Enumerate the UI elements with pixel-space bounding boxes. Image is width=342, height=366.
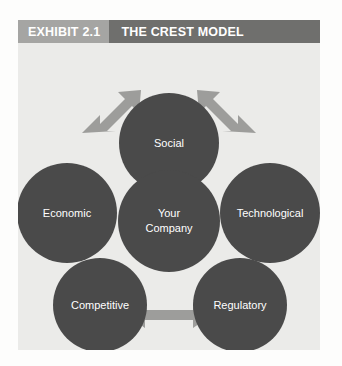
exhibit-figure: EXHIBIT 2.1 THE CREST MODEL bbox=[0, 0, 342, 366]
node-regulatory[interactable]: Regulatory bbox=[193, 258, 287, 350]
exhibit-title: THE CREST MODEL bbox=[109, 20, 320, 43]
node-social-label: Social bbox=[154, 137, 184, 149]
node-your-company-label-line2: Company bbox=[145, 222, 193, 234]
exhibit-number-label: EXHIBIT 2.1 bbox=[18, 20, 109, 43]
exhibit-header: EXHIBIT 2.1 THE CREST MODEL bbox=[18, 20, 320, 43]
node-regulatory-label: Regulatory bbox=[213, 299, 267, 311]
node-technological-label: Technological bbox=[237, 207, 304, 219]
node-your-company-label-line1: Your bbox=[158, 207, 181, 219]
node-competitive-label: Competitive bbox=[71, 299, 129, 311]
node-technological[interactable]: Technological bbox=[220, 163, 320, 263]
node-economic-label: Economic bbox=[43, 207, 92, 219]
node-your-company[interactable]: Your Company bbox=[118, 170, 220, 272]
node-competitive[interactable]: Competitive bbox=[53, 258, 147, 350]
crest-model-diagram: Social Technological Regulatory Competit… bbox=[18, 43, 320, 350]
node-economic[interactable]: Economic bbox=[18, 163, 117, 263]
